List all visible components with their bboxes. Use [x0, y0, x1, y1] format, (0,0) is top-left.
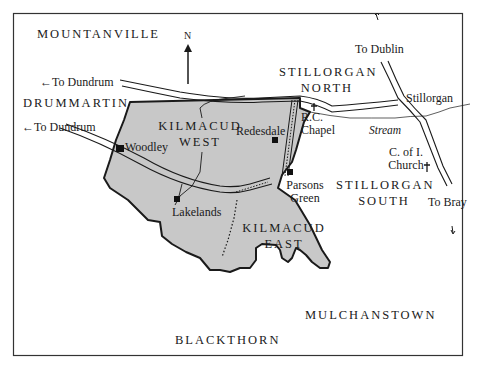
label-to-dundrum-upper: ←To Dundrum	[40, 76, 114, 88]
label-mulchanstown: MULCHANSTOWN	[305, 309, 436, 322]
label-to-dundrum-lower: ←To Dundrum	[22, 121, 96, 133]
north-arrow-icon	[184, 44, 192, 84]
label-kilmacud-east: KILMACUD EAST	[236, 222, 332, 250]
to-bray-arrow-icon	[451, 226, 455, 234]
parsons-green-building	[287, 169, 293, 175]
label-kilmacud-east-line2: EAST	[236, 238, 332, 251]
label-kilmacud-west-line1: KILMACUD	[152, 120, 248, 133]
label-drummartin: DRUMMARTIN	[23, 97, 129, 110]
label-rc-chapel: R.C. Chapel	[301, 111, 335, 136]
woodley-building	[116, 145, 124, 152]
north-label: N	[184, 31, 191, 41]
label-coi-church-line1: C. of I.	[384, 146, 428, 159]
label-blackthorn: BLACKTHORN	[175, 334, 280, 347]
label-stillorgan-south-line2: SOUTH	[336, 195, 432, 208]
label-stillorgan-north-line2: NORTH	[279, 82, 375, 95]
label-parsons-green-line2: Green	[281, 192, 329, 205]
label-coi-church: C. of I. Church	[384, 146, 428, 171]
label-to-bray: To Bray	[428, 196, 467, 208]
lakelands-building	[174, 196, 180, 202]
label-stillorgan-south-line1: STILLORGAN	[336, 179, 432, 192]
label-parsons-green: Parsons Green	[281, 179, 329, 204]
label-stream: Stream	[369, 125, 401, 137]
label-stillorgan-south: STILLORGAN SOUTH	[336, 179, 432, 207]
label-rc-chapel-line2: Chapel	[301, 124, 335, 137]
label-coi-church-line2: Church	[384, 159, 428, 172]
label-stillorgan-north-line1: STILLORGAN	[279, 66, 375, 79]
label-rc-chapel-line1: R.C.	[301, 111, 335, 124]
label-lakelands: Lakelands	[172, 206, 221, 218]
label-kilmacud-east-line1: KILMACUD	[236, 222, 332, 235]
label-woodley: Woodley	[125, 141, 168, 153]
label-to-dublin: To Dublin	[355, 43, 404, 55]
label-redesdale: Redesdale	[236, 125, 285, 137]
label-stillorgan: Stillorgan	[406, 92, 453, 104]
label-mountanville: MOUNTANVILLE	[37, 28, 160, 41]
label-stillorgan-north: STILLORGAN NORTH	[279, 66, 375, 94]
label-parsons-green-line1: Parsons	[281, 179, 329, 192]
